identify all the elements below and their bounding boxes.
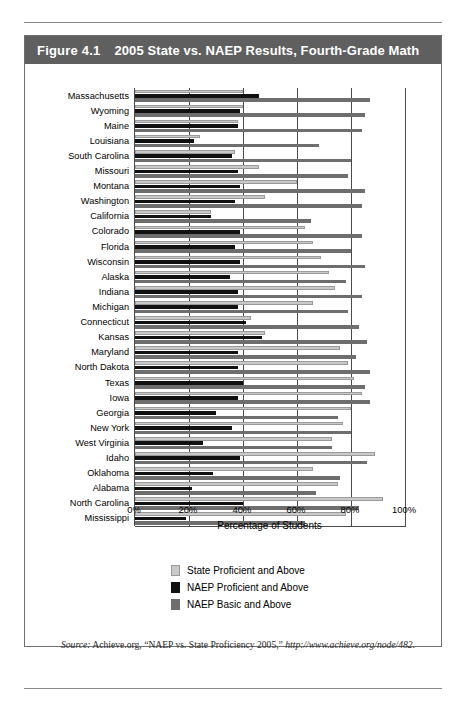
bar-state	[135, 241, 313, 245]
bar-state	[135, 331, 265, 335]
bar-naep_proficient	[135, 426, 232, 430]
category-label: Massachusetts	[68, 91, 129, 101]
bar-state	[135, 165, 259, 169]
bar-naep_basic	[135, 400, 370, 404]
bar-naep_basic	[135, 204, 362, 208]
x-tick-label: 100%	[392, 504, 416, 515]
bar-group	[135, 405, 405, 420]
bar-group	[135, 466, 405, 481]
bar-state	[135, 452, 375, 456]
bar-state	[135, 301, 313, 305]
bar-naep_proficient	[135, 290, 238, 294]
bar-state	[135, 105, 243, 109]
bar-naep_basic	[135, 385, 365, 389]
bar-naep_basic	[135, 310, 348, 314]
legend-item: NAEP Basic and Above	[171, 596, 431, 613]
bar-state	[135, 226, 305, 230]
category-label: Iowa	[110, 393, 129, 403]
bar-naep_proficient	[135, 487, 192, 491]
bar-naep_basic	[135, 249, 351, 253]
source-label: Source:	[61, 639, 90, 650]
category-label: Colorado	[92, 226, 129, 236]
bar-state	[135, 407, 351, 411]
figure-title-bar: Figure 4.1 2005 State vs. NAEP Results, …	[25, 36, 441, 64]
chart-legend: State Proficient and AboveNAEP Proficien…	[171, 562, 431, 613]
bar-naep_proficient	[135, 215, 211, 219]
bar-group	[135, 239, 405, 254]
legend-swatch-state	[171, 565, 180, 576]
bar-state	[135, 437, 332, 441]
page-rule-bottom	[24, 688, 442, 689]
figure-page: Figure 4.1 2005 State vs. NAEP Results, …	[0, 0, 465, 720]
category-label: Kansas	[98, 332, 129, 342]
bar-naep_basic	[135, 295, 362, 299]
category-label: West Virginia	[75, 438, 129, 448]
bar-state	[135, 150, 235, 154]
bar-group	[135, 481, 405, 496]
bar-group	[135, 330, 405, 345]
bar-group	[135, 284, 405, 299]
bar-group	[135, 179, 405, 194]
x-tick-label: 0%	[127, 504, 141, 515]
bar-naep_basic	[135, 113, 365, 117]
legend-item: NAEP Proficient and Above	[171, 579, 431, 596]
bar-naep_basic	[135, 129, 362, 133]
category-label: Maine	[104, 121, 129, 131]
bar-group	[135, 315, 405, 330]
legend-label: NAEP Basic and Above	[187, 599, 291, 610]
bar-state	[135, 422, 343, 426]
bar-group	[135, 299, 405, 314]
bar-naep_proficient	[135, 305, 238, 309]
category-label: California	[90, 211, 129, 221]
plot-wrapper: MassachusettsWyomingMaineLouisianaSouth …	[25, 64, 441, 648]
legend-swatch-naep_basic	[171, 599, 180, 610]
bar-naep_proficient	[135, 200, 235, 204]
category-label: Washington	[81, 196, 129, 206]
legend-item: State Proficient and Above	[171, 562, 431, 579]
bar-state	[135, 256, 321, 260]
x-tick-label: 60%	[287, 504, 306, 515]
bar-naep_basic	[135, 280, 346, 284]
bar-group	[135, 420, 405, 435]
bar-group	[135, 390, 405, 405]
bar-group	[135, 88, 405, 103]
bar-naep_proficient	[135, 456, 240, 460]
bar-group	[135, 118, 405, 133]
bar-state	[135, 210, 211, 214]
bar-naep_proficient	[135, 230, 240, 234]
bar-state	[135, 377, 354, 381]
bar-group	[135, 103, 405, 118]
bar-naep_proficient	[135, 366, 238, 370]
bar-group	[135, 450, 405, 465]
bar-state	[135, 482, 338, 486]
category-label: New York	[90, 423, 129, 433]
category-label: Oklahoma	[87, 468, 129, 478]
bar-group	[135, 254, 405, 269]
category-axis-labels: MassachusettsWyomingMaineLouisianaSouth …	[25, 88, 133, 526]
bar-state	[135, 316, 251, 320]
category-label: Wyoming	[91, 106, 129, 116]
bar-state	[135, 195, 265, 199]
bar-naep_basic	[135, 325, 359, 329]
source-text: Achieve.org, “NAEP vs. State Proficiency…	[92, 639, 283, 650]
bar-group	[135, 164, 405, 179]
figure-number: Figure 4.1	[37, 43, 100, 58]
bar-group	[135, 194, 405, 209]
bar-naep_proficient	[135, 109, 240, 113]
bar-naep_proficient	[135, 260, 240, 264]
bar-group	[135, 360, 405, 375]
gridline-100	[405, 88, 406, 526]
category-label: Wisconsin	[87, 257, 129, 267]
category-label: Alaska	[101, 272, 129, 282]
bar-naep_proficient	[135, 472, 213, 476]
category-label: Louisiana	[90, 136, 129, 146]
bar-group	[135, 375, 405, 390]
category-label: Michigan	[92, 302, 129, 312]
bar-naep_proficient	[135, 381, 243, 385]
bar-state	[135, 286, 335, 290]
bar-naep_proficient	[135, 275, 230, 279]
bar-naep_basic	[135, 446, 332, 450]
bar-naep_proficient	[135, 139, 194, 143]
bar-group	[135, 345, 405, 360]
bar-group	[135, 224, 405, 239]
